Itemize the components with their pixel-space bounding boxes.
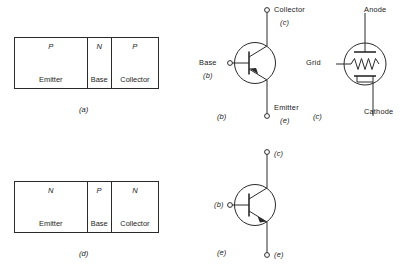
cathode-heater: [357, 76, 373, 82]
region-name-label: Collector: [120, 220, 149, 227]
emitter-label: Emitter: [274, 104, 299, 111]
emitter-arrow-inward: [249, 68, 258, 74]
emitter-terminal: [265, 253, 270, 258]
emitter-terminal: [265, 114, 270, 119]
emitter-letter-label: (e): [280, 117, 290, 124]
region-name-label: Base: [91, 76, 108, 83]
region-name-label: Base: [91, 220, 108, 227]
collector-terminal: [265, 8, 270, 13]
base-terminal: [228, 61, 233, 66]
region-type-label: N: [132, 187, 137, 195]
slab-region-collector: P Collector: [111, 38, 158, 88]
emitter-slant: [249, 69, 267, 80]
slab-region-collector: N Collector: [111, 182, 158, 232]
region-type-label: P: [97, 187, 102, 195]
collector-letter-label: (c): [274, 150, 283, 157]
region-name-label: Emitter: [39, 220, 62, 227]
emitter-arrow-outward: [258, 217, 267, 223]
region-name-label: Emitter: [39, 76, 62, 83]
region-type-label: N: [96, 43, 101, 51]
figure-canvas: P Emitter N Base P Collector (a) N Emitt…: [0, 0, 413, 277]
base-letter-label: (b): [214, 201, 224, 208]
region-type-label: N: [48, 187, 53, 195]
base-label: Base: [199, 59, 217, 66]
slab-region-emitter: N Emitter: [15, 182, 87, 232]
collector-letter-label: (c): [280, 19, 289, 26]
base-terminal: [228, 203, 233, 208]
region-type-label: P: [132, 43, 137, 51]
grid-label: Grid: [306, 59, 321, 66]
slab-region-base: P Base: [87, 182, 111, 232]
slab-diagram-npn: N Emitter P Base N Collector: [14, 181, 159, 233]
slab-region-emitter: P Emitter: [15, 38, 87, 88]
collector-terminal: [265, 150, 270, 155]
panel-caption-d: (d): [79, 250, 88, 258]
grid-zigzag: [351, 59, 379, 70]
panel-caption-e: (e): [217, 249, 226, 257]
cathode-label: Cathode: [364, 108, 393, 115]
panel-caption-b: (b): [217, 113, 226, 121]
base-letter-label: (b): [203, 72, 213, 79]
collector-slant: [249, 188, 267, 199]
panel-caption-c: (c): [313, 113, 322, 121]
slab-diagram-pnp: P Emitter N Base P Collector: [14, 37, 159, 89]
anode-label: Anode: [364, 6, 386, 13]
region-type-label: P: [48, 43, 53, 51]
vacuum-tube-symbol-triode: [330, 6, 410, 121]
collector-slant: [249, 46, 267, 57]
slab-region-base: N Base: [87, 38, 111, 88]
region-name-label: Collector: [120, 76, 149, 83]
collector-label: Collector: [274, 6, 305, 13]
panel-caption-a: (a): [79, 106, 88, 114]
emitter-letter-label: (e): [274, 251, 284, 258]
